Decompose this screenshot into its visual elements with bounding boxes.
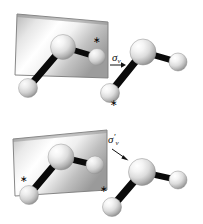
asterisk-marker-image: ∗ xyxy=(100,185,108,194)
atom-central xyxy=(129,159,156,186)
molecule-reflected xyxy=(103,159,188,217)
atom-right-terminal xyxy=(89,49,106,66)
atom-right-terminal xyxy=(86,156,104,174)
sigma-v-prime-scene xyxy=(0,112,203,224)
sigma-v-reflection-panel: σv ∗ ∗ xyxy=(0,0,203,112)
atom-lower-left xyxy=(20,186,39,205)
sigma-subscript: v xyxy=(117,57,120,65)
sigma-v-prime-reflection-panel: σ′v ∗ ∗ xyxy=(0,112,203,224)
atom-lower-left xyxy=(103,198,122,217)
atom-right-terminal xyxy=(169,171,187,189)
atom-lower-left xyxy=(19,79,38,98)
molecule-original xyxy=(101,39,188,103)
symmetry-operation-figure: σv ∗ ∗ xyxy=(0,0,203,224)
atom-central xyxy=(130,39,156,65)
atom-central xyxy=(48,144,74,170)
sigma-v-label: σv xyxy=(112,52,121,65)
asterisk-marker-plane: ∗ xyxy=(20,175,28,184)
asterisk-marker-image: ∗ xyxy=(110,99,118,108)
sigma-v-prime-arrow-icon xyxy=(112,149,129,161)
atom-central xyxy=(51,35,76,60)
atom-right-terminal xyxy=(169,53,187,71)
asterisk-marker-plane: ∗ xyxy=(93,36,101,45)
sigma-subscript: v xyxy=(115,139,118,147)
sigma-v-prime-label: σ′v xyxy=(108,133,119,147)
sigma-v-scene xyxy=(0,0,203,112)
